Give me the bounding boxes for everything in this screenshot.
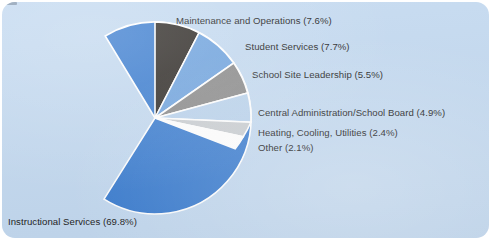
- slice-label-maintenance-and-operations: Maintenance and Operations (7.6%): [176, 15, 332, 26]
- pie-chart-figure: Maintenance and Operations (7.6%) Studen…: [0, 0, 491, 240]
- pie-slices: [104, 22, 251, 214]
- slice-label-other: Other (2.1%): [258, 142, 314, 153]
- slice-label-student-services: Student Services (7.7%): [245, 41, 350, 52]
- slice-label-heating-cooling-utilities: Heating, Cooling, Utilities (2.4%): [258, 127, 398, 138]
- pie-chart-graphic: [2, 2, 489, 238]
- chart-panel: Maintenance and Operations (7.6%) Studen…: [2, 2, 489, 238]
- slice-label-school-site-leadership: School Site Leadership (5.5%): [252, 69, 383, 80]
- slice-label-instructional-services: Instructional Services (69.8%): [8, 216, 137, 227]
- slice-label-central-administration-school-board: Central Administration/School Board (4.9…: [258, 107, 445, 118]
